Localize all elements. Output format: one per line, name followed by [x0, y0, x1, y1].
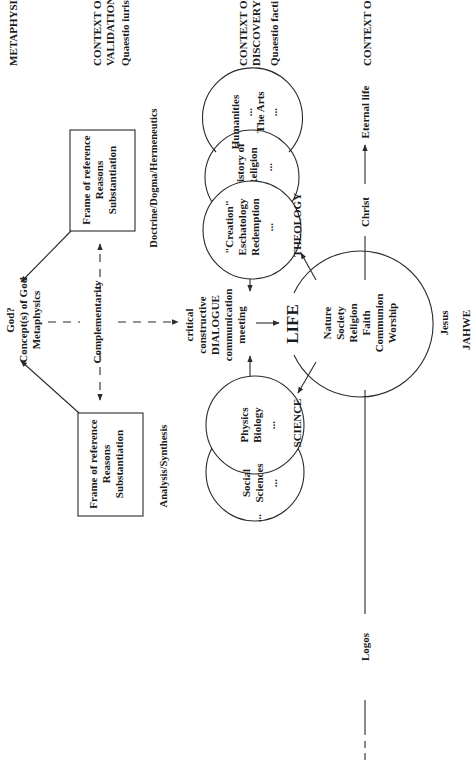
- svg-text:Quaestio iuris: Quaestio iuris: [119, 0, 131, 66]
- svg-text:The Arts: The Arts: [254, 91, 266, 133]
- svg-text:Communion: Communion: [373, 294, 385, 353]
- svg-text:critical: critical: [183, 309, 195, 342]
- svg-text:Faith: Faith: [360, 310, 372, 335]
- svg-text:Humanities: Humanities: [229, 94, 241, 149]
- science-label: SCIENCE: [291, 399, 303, 448]
- svg-text:...: ...: [267, 108, 279, 117]
- svg-text:Substantiation: Substantiation: [106, 146, 118, 214]
- circle-humanities-text: Humanities ... The Arts ...: [229, 91, 279, 150]
- svg-text:...: ...: [267, 479, 279, 488]
- svg-text:Social: Social: [240, 469, 252, 497]
- label-jahwe: JAHWE: [460, 310, 472, 350]
- doctrine-label: Doctrine/Dogma/Hermeneutics: [148, 108, 159, 247]
- timeline-eternal-life: Eternal life: [359, 85, 371, 138]
- header-context-of-life: CONTEXT OF LIFE: [361, 0, 373, 66]
- god-concepts-label: God? Concept(s) of God Metaphysics: [4, 277, 42, 363]
- dialogue-text: critical constructive DIALOGUE communica…: [183, 289, 247, 362]
- svg-text:Worship: Worship: [386, 303, 398, 343]
- svg-text:...: ...: [262, 163, 274, 172]
- arrow-bottombox-to-god: [21, 361, 79, 413]
- svg-text:Sciences: Sciences: [253, 463, 265, 503]
- svg-text:God?: God?: [4, 307, 16, 333]
- svg-text:Metaphysics: Metaphysics: [30, 290, 42, 349]
- frame-box-top-text: Frame of reference Reasons Substantiatio…: [80, 135, 118, 224]
- header-metaphysics: METAPHYSICS: [7, 0, 19, 66]
- svg-text:communication: communication: [222, 289, 234, 362]
- svg-text:Quaestio facti: Quaestio facti: [268, 1, 280, 66]
- svg-text:Reasons: Reasons: [100, 444, 112, 483]
- svg-text:Frame of reference: Frame of reference: [87, 419, 99, 508]
- svg-text:constructive: constructive: [196, 296, 208, 354]
- svg-text:VALIDATION: VALIDATION: [104, 0, 116, 66]
- label-jesus: Jesus: [438, 310, 450, 336]
- life-title: LIFE: [283, 304, 302, 344]
- svg-text:Nature: Nature: [321, 306, 333, 339]
- svg-text:Concept(s) of God: Concept(s) of God: [17, 277, 30, 363]
- svg-text:...: ...: [265, 421, 277, 430]
- theology-label: THEOLOGY: [291, 193, 303, 257]
- svg-text:DIALOGUE: DIALOGUE: [209, 295, 221, 355]
- svg-text:DISCOVERY: DISCOVERY: [250, 0, 262, 66]
- frame-box-bottom-text: Frame of reference Reasons Substantiatio…: [87, 419, 125, 508]
- svg-text:meeting: meeting: [235, 306, 247, 344]
- analysis-synthesis-label: Analysis/Synthesis: [158, 425, 169, 508]
- svg-text:Religion: Religion: [347, 303, 359, 342]
- svg-text:Reasons: Reasons: [93, 160, 105, 199]
- timeline-christ: Christ: [359, 197, 371, 227]
- svg-text:CONTEXT OF: CONTEXT OF: [237, 0, 249, 66]
- svg-text:Redemption: Redemption: [249, 198, 261, 255]
- svg-text:CONTEXT OF: CONTEXT OF: [91, 0, 103, 66]
- complementarity-label: Complementarity: [91, 280, 103, 364]
- arrow-topbox-to-god: [21, 231, 71, 282]
- svg-text:...: ...: [242, 108, 254, 117]
- svg-text:Physics: Physics: [238, 407, 250, 443]
- header-context-of-validation: CONTEXT OF VALIDATION Quaestio iuris: [91, 0, 131, 66]
- svg-text:Biology: Biology: [251, 407, 263, 443]
- svg-text:Frame of reference: Frame of reference: [80, 135, 92, 224]
- circle-life-text: Nature Society Religion Faith Communion …: [321, 294, 398, 353]
- svg-text:"Creation": "Creation": [223, 200, 235, 254]
- svg-text:Substantiation: Substantiation: [113, 430, 125, 498]
- arrow-life-to-theology: [301, 253, 316, 280]
- svg-text:...: ...: [263, 223, 275, 232]
- svg-text:Eschatology: Eschatology: [236, 198, 248, 255]
- svg-text:Society: Society: [334, 306, 346, 340]
- header-context-of-discovery: CONTEXT OF DISCOVERY Quaestio facti: [237, 0, 280, 66]
- theology-science-dialogue-diagram: METAPHYSICS CONTEXT OF VALIDATION Quaest…: [0, 0, 476, 778]
- social-trailing-ellipsis: ...: [251, 514, 263, 523]
- timeline-logos: Logos: [359, 632, 371, 661]
